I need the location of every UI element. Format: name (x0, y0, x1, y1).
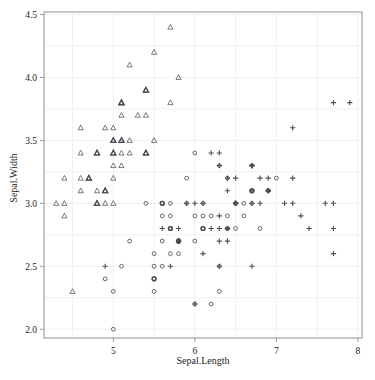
y-axis-title: Sepal.Width (8, 153, 19, 202)
x-axis-title: Sepal.Length (176, 355, 229, 366)
y-tick-label: 3.0 (25, 199, 37, 209)
y-tick-label: 4.5 (25, 10, 37, 20)
scatter-plot-figure: 56782.02.53.03.54.04.5 Sepal.Length Sepa… (0, 0, 375, 380)
y-tick-label: 3.5 (25, 136, 37, 146)
y-tick-label: 4.0 (25, 73, 37, 83)
plot-svg: 56782.02.53.03.54.04.5 Sepal.Length Sepa… (0, 0, 375, 380)
x-tick-label: 8 (356, 346, 361, 356)
y-tick-label: 2.5 (25, 262, 37, 272)
x-tick-label: 7 (274, 346, 279, 356)
figure-background (0, 0, 375, 380)
y-tick-label: 2.0 (25, 325, 37, 335)
x-tick-label: 5 (111, 346, 116, 356)
